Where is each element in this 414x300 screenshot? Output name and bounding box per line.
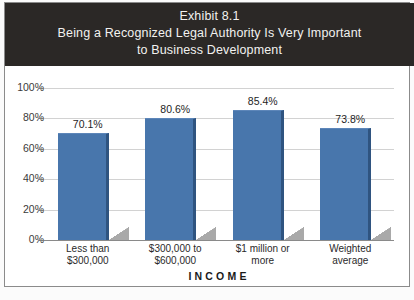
bar[interactable] xyxy=(233,110,284,240)
bar[interactable] xyxy=(58,133,109,240)
x-axis-category-label: Less than$300,000 xyxy=(45,243,131,266)
y-axis-tick-label: 60% xyxy=(10,142,44,154)
bar-shadow xyxy=(284,227,304,240)
x-axis-category-label: $300,000 to$600,000 xyxy=(132,243,218,266)
title-line-2: Being a Recognized Legal Authority Is Ve… xyxy=(5,25,414,42)
title-line-3: to Business Development xyxy=(5,42,414,59)
category-label-line: $600,000 xyxy=(132,255,218,267)
x-axis-title: INCOME xyxy=(44,270,394,282)
category-label-line: $300,000 to xyxy=(132,243,218,255)
bar-group: 85.4% xyxy=(225,88,301,240)
category-label-line: $1 million or xyxy=(220,243,306,255)
x-axis-category-label: $1 million ormore xyxy=(220,243,306,266)
bar-value-label: 70.1% xyxy=(50,118,126,130)
bar[interactable] xyxy=(320,128,371,240)
bar-value-label: 73.8% xyxy=(312,113,388,125)
bar[interactable] xyxy=(145,118,196,241)
bar-value-label: 80.6% xyxy=(137,103,213,115)
bar-group: 73.8% xyxy=(312,88,388,240)
bar-shadow xyxy=(371,227,391,240)
x-axis-line xyxy=(44,240,394,241)
bar-shadow xyxy=(109,227,129,240)
category-label-line: Weighted xyxy=(307,243,393,255)
y-axis: 100%80%60%40%20%0% xyxy=(0,88,44,240)
bar-group: 80.6% xyxy=(137,88,213,240)
y-axis-tick-label: 80% xyxy=(10,111,44,123)
y-axis-tick-label: 0% xyxy=(10,233,44,245)
y-axis-tick-label: 100% xyxy=(10,81,44,93)
category-label-line: Less than xyxy=(45,243,131,255)
bar-group: 70.1% xyxy=(50,88,126,240)
y-axis-tick-label: 40% xyxy=(10,172,44,184)
x-axis-category-label: Weightedaverage xyxy=(307,243,393,266)
chart-title-banner: Exhibit 8.1 Being a Recognized Legal Aut… xyxy=(5,3,414,66)
plot-area: 70.1%80.6%85.4%73.8% xyxy=(44,88,394,240)
chart-figure: Exhibit 8.1 Being a Recognized Legal Aut… xyxy=(0,0,414,300)
y-axis-tick-label: 20% xyxy=(10,203,44,215)
bar-value-label: 85.4% xyxy=(225,95,301,107)
category-label-line: more xyxy=(220,255,306,267)
x-axis-category-labels: Less than$300,000$300,000 to$600,000$1 m… xyxy=(44,243,394,271)
title-line-1: Exhibit 8.1 xyxy=(5,8,414,25)
category-label-line: $300,000 xyxy=(45,255,131,267)
bar-shadow xyxy=(196,227,216,240)
category-label-line: average xyxy=(307,255,393,267)
